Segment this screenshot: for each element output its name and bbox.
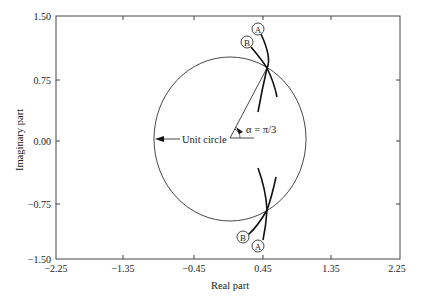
y-tick-label: 0.75 xyxy=(34,75,52,86)
x-tick-label: −0.45 xyxy=(182,263,205,274)
unit-circle-label: Unit circle xyxy=(182,134,227,145)
y-axis-label: Imaginary part xyxy=(14,109,25,171)
marker-a-label: A xyxy=(255,242,262,252)
x-tick-label: 0.45 xyxy=(254,263,272,274)
x-tick-label: 2.25 xyxy=(388,263,406,274)
curve-b-lower xyxy=(248,177,276,235)
x-tick-label: −1.35 xyxy=(111,263,134,274)
y-tick-label: −0.75 xyxy=(28,199,51,210)
chart: −2.25 −1.35 −0.45 0.45 1.35 2.25 1.50 0.… xyxy=(0,0,421,302)
y-tick-label: −1.50 xyxy=(28,254,51,265)
arrow-head-icon xyxy=(155,136,164,142)
x-tick-label: 1.35 xyxy=(322,263,340,274)
y-tick-label: 1.50 xyxy=(34,11,52,22)
marker-a-label: A xyxy=(255,25,262,35)
marker-a-lower: A xyxy=(252,240,264,252)
plot-frame xyxy=(56,16,400,259)
x-axis-label: Real part xyxy=(211,280,249,291)
y-ticks xyxy=(56,80,400,204)
curve-a-lower xyxy=(258,168,267,240)
marker-b-label: B xyxy=(240,233,246,243)
marker-b-label: B xyxy=(244,38,250,48)
marker-b-lower: B xyxy=(237,231,249,243)
y-tick-label: 0.00 xyxy=(34,136,52,147)
curve-a-upper xyxy=(258,34,269,112)
marker-a-upper: A xyxy=(252,23,264,35)
marker-b-upper: B xyxy=(241,36,253,48)
alpha-label: α = π/3 xyxy=(246,124,276,135)
